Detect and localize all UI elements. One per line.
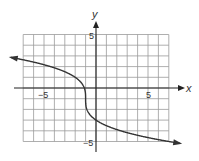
x-tick-label-neg5: −5 — [38, 90, 48, 100]
y-axis-arrow-icon — [93, 21, 99, 28]
y-tick-label-5: 5 — [89, 31, 94, 41]
x-axis-label: x — [185, 82, 192, 94]
y-tick-label-neg5: −5 — [83, 138, 93, 148]
curve-right-arrow-icon — [173, 139, 182, 145]
y-axis-label: y — [91, 8, 99, 20]
y-axis: y — [91, 8, 99, 152]
graph: x y −5 5 5 −5 — [0, 0, 199, 161]
x-tick-label-5: 5 — [146, 90, 151, 100]
curve-left-arrow-icon — [9, 56, 18, 62]
x-axis-arrow-icon — [178, 85, 185, 91]
